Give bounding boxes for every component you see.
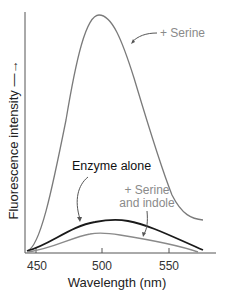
annotation-serine: + Serine [160, 26, 205, 40]
fluorescence-chart: 450 500 550 Wavelength (nm) Fluorescence… [0, 0, 225, 291]
annotation-serine-indole-line2: and indole [119, 196, 175, 210]
annotation-enzyme-alone: Enzyme alone [72, 159, 151, 173]
arrowhead-icon [77, 217, 82, 222]
x-tick-label-450: 450 [27, 259, 47, 273]
annotation-indole-arrow [144, 211, 147, 234]
x-axis-title: Wavelength (nm) [68, 275, 167, 290]
arrowhead-icon [142, 232, 146, 237]
x-tick-label-500: 500 [92, 259, 112, 273]
y-axis-title: Fluorescence intensity —→ [6, 61, 21, 220]
annotation-enzyme-arrow [77, 177, 88, 219]
annotation-serine-indole-line1: + Serine [124, 183, 169, 197]
serine-curve [27, 15, 203, 251]
annotation-serine-arrow [132, 33, 157, 42]
x-tick-label-550: 550 [159, 259, 179, 273]
